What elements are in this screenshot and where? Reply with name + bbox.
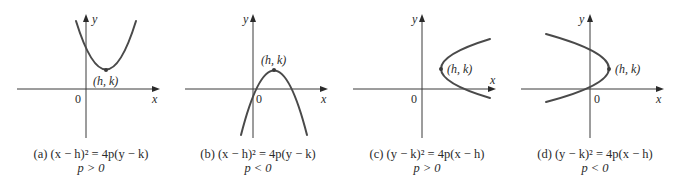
caption-condition: p > 0 <box>362 161 492 175</box>
y-axis-arrow-icon <box>419 14 425 22</box>
vertex-label: (h, k) <box>261 53 286 67</box>
y-axis-arrow-icon <box>587 14 593 22</box>
vertex-label: (h, k) <box>447 62 472 76</box>
caption-condition: p > 0 <box>26 161 156 175</box>
y-axis-label: y <box>242 12 249 26</box>
origin-label: 0 <box>256 92 262 106</box>
x-axis-label: x <box>655 92 662 106</box>
vertex-point <box>439 67 443 71</box>
panel-c: y x 0 (h, k) <box>353 12 496 138</box>
panel-d: y x 0 (h, k) <box>521 12 664 138</box>
y-axis-arrow-icon <box>250 14 256 22</box>
y-axis-label: y <box>578 12 585 26</box>
parabola-curve <box>76 21 136 70</box>
x-axis-label: x <box>151 92 158 106</box>
y-axis-label: y <box>411 12 418 26</box>
vertex-point <box>607 67 611 71</box>
caption-d: (d) (y − k)² = 4p(x − h) p < 0 <box>530 147 660 175</box>
origin-label: 0 <box>411 92 417 106</box>
panel-b: y x 0 (h, k) <box>185 12 328 138</box>
caption-equation: (a) (x − h)² = 4p(y − k) <box>26 147 156 161</box>
origin-label: 0 <box>75 92 81 106</box>
caption-b: (b) (x − h)² = 4p(y − k) p < 0 <box>193 147 323 175</box>
y-axis-label: y <box>91 12 98 26</box>
origin-label: 0 <box>594 92 600 106</box>
caption-condition: p < 0 <box>193 161 323 175</box>
caption-c: (c) (y − k)² = 4p(x − h) p > 0 <box>362 147 492 175</box>
y-axis-arrow-icon <box>83 14 89 22</box>
panel-a: y x 0 (h, k) <box>17 12 160 138</box>
caption-equation: (c) (y − k)² = 4p(x − h) <box>362 147 492 161</box>
vertex-label: (h, k) <box>93 74 118 88</box>
caption-a: (a) (x − h)² = 4p(y − k) p > 0 <box>26 147 156 175</box>
x-axis-label: x <box>320 92 327 106</box>
vertex-label: (h, k) <box>615 62 640 76</box>
caption-equation: (b) (x − h)² = 4p(y − k) <box>193 147 323 161</box>
vertex-point <box>104 68 108 72</box>
parabola-curve <box>241 71 307 136</box>
x-axis-label: x <box>489 73 496 87</box>
caption-condition: p < 0 <box>530 161 660 175</box>
vertex-point <box>272 68 276 72</box>
caption-equation: (d) (y − k)² = 4p(x − h) <box>530 147 660 161</box>
